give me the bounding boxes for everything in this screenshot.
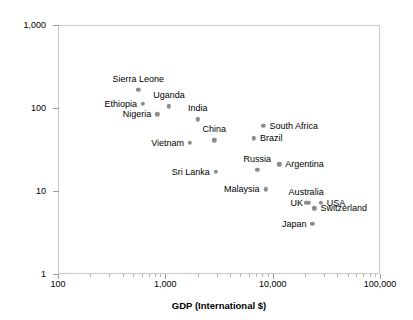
- y-tick-1000: [53, 25, 59, 26]
- point-label: Ethiopia: [105, 99, 138, 109]
- x-tick-minor: [363, 274, 364, 277]
- point-label: Vietnam: [151, 138, 184, 148]
- x-tick-minor: [249, 274, 250, 277]
- point-label: Switzerland: [320, 203, 367, 213]
- x-tick-minor: [155, 274, 156, 277]
- x-tick-minor: [133, 274, 134, 277]
- y-tick-10: [53, 191, 59, 192]
- x-tick-label-1000: 1,000: [154, 279, 177, 289]
- point-label: India: [188, 103, 208, 113]
- plot-area: [58, 25, 380, 274]
- x-tick-minor: [149, 274, 150, 277]
- point-label: Argentina: [285, 159, 324, 169]
- x-tick-minor: [240, 274, 241, 277]
- point-label: South Africa: [269, 121, 318, 131]
- x-tick-minor: [262, 274, 263, 277]
- point-label: Russia: [244, 154, 272, 164]
- point-label: UK: [290, 198, 303, 208]
- point-label: Japan: [282, 219, 307, 229]
- x-tick-label-100: 100: [50, 279, 65, 289]
- x-tick-minor: [230, 274, 231, 277]
- x-tick-minor: [109, 274, 110, 277]
- x-tick-label-10000: 10,000: [259, 279, 287, 289]
- point-label: China: [202, 124, 226, 134]
- x-tick-minor: [90, 274, 91, 277]
- x-tick-minor: [375, 274, 376, 277]
- y-tick-label-1: 1: [0, 269, 46, 279]
- x-tick-minor: [142, 274, 143, 277]
- x-tick-minor: [198, 274, 199, 277]
- x-tick-minor: [123, 274, 124, 277]
- scatter-chart: Infant mortality (per 1,000 live births)…: [0, 0, 413, 320]
- x-tick-minor: [160, 274, 161, 277]
- point-label: Australia: [289, 187, 324, 197]
- point-label: Uganda: [153, 90, 185, 100]
- point-label: Nigeria: [123, 109, 152, 119]
- x-tick-minor: [268, 274, 269, 277]
- x-tick-minor: [370, 274, 371, 277]
- y-tick-label-100: 100: [0, 103, 46, 113]
- y-tick-100: [53, 108, 59, 109]
- x-tick-minor: [305, 274, 306, 277]
- x-tick-minor: [256, 274, 257, 277]
- x-tick-minor: [324, 274, 325, 277]
- x-tick-minor: [337, 274, 338, 277]
- point-label: Malaysia: [224, 184, 260, 194]
- y-tick-label-1000: 1,000: [0, 20, 46, 30]
- x-tick-minor: [217, 274, 218, 277]
- x-tick-label-100000: 100,000: [364, 279, 397, 289]
- x-tick-minor: [356, 274, 357, 277]
- point-label: Sri Lanka: [172, 167, 210, 177]
- y-tick-label-10: 10: [0, 186, 46, 196]
- point-label: Brazil: [260, 133, 283, 143]
- x-axis-title: GDP (International $): [58, 300, 380, 311]
- x-tick-minor: [348, 274, 349, 277]
- point-label: Sierra Leone: [113, 74, 165, 84]
